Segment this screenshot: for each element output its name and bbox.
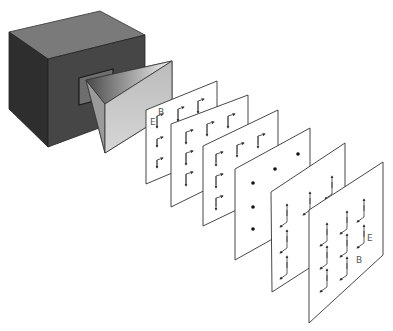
label-B-end: B (356, 255, 362, 265)
diagram-canvas: E B (0, 0, 393, 331)
wave-diagram: E B (0, 0, 393, 331)
label-B-start: B (158, 107, 164, 117)
label-E-end: E (367, 233, 373, 243)
label-E-start: E (150, 117, 156, 127)
